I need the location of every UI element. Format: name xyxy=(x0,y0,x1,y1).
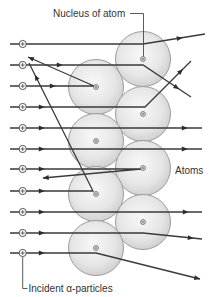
arrowhead-icon xyxy=(39,231,45,236)
atoms-label: Atoms xyxy=(175,165,203,176)
incident-particle-markers-group xyxy=(19,40,26,256)
positive-charge-icon xyxy=(19,249,26,256)
positive-charge-icon xyxy=(19,82,26,89)
arrowhead-icon xyxy=(39,167,45,172)
arrowhead-icon xyxy=(39,105,45,110)
nucleus-icon xyxy=(141,166,146,171)
arrowhead-icon xyxy=(39,147,45,152)
arrowhead-icon xyxy=(182,147,188,152)
arrowhead-icon xyxy=(33,73,40,81)
rutherford-scattering-diagram: Nucleus of atom Atoms Incident α-particl… xyxy=(0,0,214,297)
arrowhead-icon xyxy=(183,210,189,215)
arrowhead-icon xyxy=(42,175,48,180)
alpha-particle-track xyxy=(10,34,205,44)
positive-charge-icon xyxy=(19,187,26,194)
arrowhead-icon xyxy=(39,189,45,194)
positive-charge-icon xyxy=(19,40,26,47)
arrowhead-icon xyxy=(50,84,56,89)
nucleus-icon xyxy=(94,85,99,90)
arrowhead-icon xyxy=(39,210,45,215)
arrowhead-icon xyxy=(39,126,45,131)
positive-charge-icon xyxy=(19,103,26,110)
nucleus-icon xyxy=(141,220,146,225)
arrowhead-icon xyxy=(57,63,63,68)
nucleus-icon xyxy=(94,192,99,197)
positive-charge-icon xyxy=(19,229,26,236)
arrowhead-icon xyxy=(182,126,188,131)
incident-leader-line xyxy=(23,257,28,289)
nucleus-icon xyxy=(94,246,99,251)
positive-charge-icon xyxy=(19,61,26,68)
nucleus-icon xyxy=(141,112,146,117)
positive-charge-icon xyxy=(19,165,26,172)
arrowhead-icon xyxy=(39,251,45,256)
nucleus-label: Nucleus of atom xyxy=(53,8,125,19)
positive-charge-icon xyxy=(19,145,26,152)
nucleus-icon xyxy=(141,57,146,62)
arrowhead-icon xyxy=(188,235,194,240)
positive-charge-icon xyxy=(19,208,26,215)
arrowhead-icon xyxy=(27,55,34,62)
incident-particles-label: Incident α-particles xyxy=(29,283,113,294)
atoms-group xyxy=(69,32,171,276)
positive-charge-icon xyxy=(19,124,26,131)
nucleus-icon xyxy=(94,139,99,144)
